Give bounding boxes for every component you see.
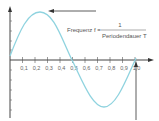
sine-diagram: 0,10,20,30,40,50,60,70,80,91,0 Frequenz … xyxy=(0,0,159,121)
y-axis-arrow-icon xyxy=(8,6,12,12)
peak-arrow xyxy=(48,9,96,13)
x-tick-label: 0,4 xyxy=(58,65,66,71)
x-tick-label: 0,8 xyxy=(108,65,116,71)
formula-denominator: Periodendauer T xyxy=(102,33,147,39)
x-axis-arrow-icon xyxy=(148,58,154,62)
x-tick-label: 0,3 xyxy=(45,65,53,71)
x-axis xyxy=(10,58,154,62)
arrow-left-icon xyxy=(48,9,54,13)
y-axis xyxy=(8,6,12,118)
x-tick-label: 0,6 xyxy=(83,65,91,71)
formula-numerator: 1 xyxy=(118,22,122,28)
x-ticks: 0,10,20,30,40,50,60,70,80,91,0 xyxy=(20,57,140,71)
x-tick-label: 0,7 xyxy=(95,65,103,71)
x-tick-label: 0,1 xyxy=(20,65,28,71)
formula-lhs: Frequenz f = xyxy=(67,27,101,33)
frequency-formula: Frequenz f = 1 Periodendauer T xyxy=(67,22,147,39)
x-tick-label: 0,2 xyxy=(33,65,41,71)
x-tick-label: 0,9 xyxy=(120,65,128,71)
